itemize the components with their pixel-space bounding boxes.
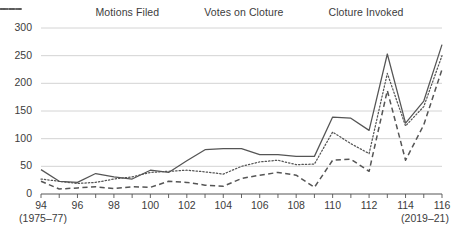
y-axis-tick-0: 0	[2, 187, 32, 199]
x-axis-end-note: (2019–21)	[388, 212, 462, 224]
x-axis-tick-114: 114	[389, 199, 423, 211]
y-axis-tick-300: 300	[2, 21, 32, 33]
x-axis-tick-108: 108	[279, 199, 313, 211]
x-axis-tick-96: 96	[60, 199, 94, 211]
y-axis-tick-100: 100	[2, 132, 32, 144]
x-axis-ticks	[41, 194, 442, 198]
x-axis-tick-106: 106	[243, 199, 277, 211]
x-axis-tick-102: 102	[170, 199, 204, 211]
x-axis-tick-112: 112	[352, 199, 386, 211]
y-axis-tick-150: 150	[2, 104, 32, 116]
x-axis-tick-116: 116	[425, 199, 459, 211]
gridlines	[41, 28, 442, 194]
x-axis-tick-100: 100	[133, 199, 167, 211]
y-axis-tick-50: 50	[2, 159, 32, 171]
y-axis-tick-200: 200	[2, 76, 32, 88]
x-axis-tick-94: 94	[24, 199, 58, 211]
y-axis-tick-250: 250	[2, 49, 32, 61]
x-axis-tick-104: 104	[206, 199, 240, 211]
data-series-group	[41, 45, 442, 189]
x-axis-start-note: (1975–77)	[6, 212, 80, 224]
x-axis-tick-110: 110	[316, 199, 350, 211]
cloture-line-chart: Motions Filed Votes on Cloture Cloture I…	[0, 0, 471, 237]
x-axis-tick-98: 98	[97, 199, 131, 211]
series-line-cloture-invoked	[41, 70, 442, 190]
